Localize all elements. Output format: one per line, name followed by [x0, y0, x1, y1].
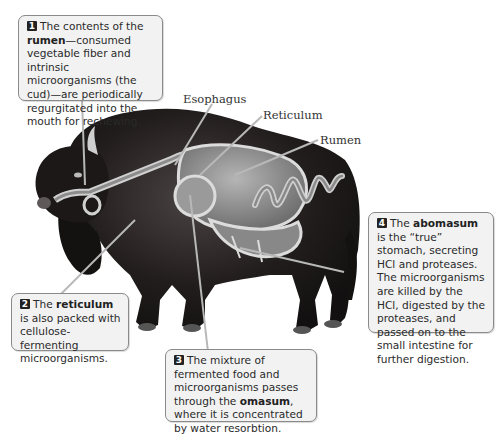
callout-omasum: 3The mixture of fermented food and micro… — [165, 349, 317, 422]
callout-text: The — [390, 217, 413, 229]
ruminant-stomach-diagram: Esophagus Reticulum Rumen 1The contents … — [0, 0, 501, 440]
callout-rumen: 1The contents of the rumen—consumed vege… — [18, 15, 163, 101]
number-badge: 3 — [174, 355, 184, 365]
callout-term: abomasum — [413, 217, 478, 229]
number-badge: 2 — [20, 299, 30, 309]
callout-reticulum: 2The reticulum is also packed with cellu… — [11, 293, 129, 351]
callout-text: The — [33, 298, 56, 310]
callout-text: —consumed vegetable fiber and intrinsic … — [27, 34, 143, 128]
reticulum-chamber — [175, 176, 215, 216]
callout-term: omasum — [240, 395, 290, 407]
callout-term: rumen — [27, 34, 66, 46]
callout-term: reticulum — [56, 298, 113, 310]
label-reticulum: Reticulum — [263, 108, 323, 122]
callout-abomasum: 4The abomasum is the “true” stomach, sec… — [368, 212, 494, 333]
number-badge: 1 — [27, 21, 37, 31]
number-badge: 4 — [377, 218, 387, 228]
callout-text: is also packed with cellulose-fermenting… — [20, 312, 121, 365]
label-esophagus: Esophagus — [183, 92, 247, 106]
label-rumen: Rumen — [320, 133, 361, 147]
callout-text: The contents of the — [40, 20, 143, 32]
callout-text: is the “true” stomach, secreting HCl and… — [377, 231, 485, 365]
